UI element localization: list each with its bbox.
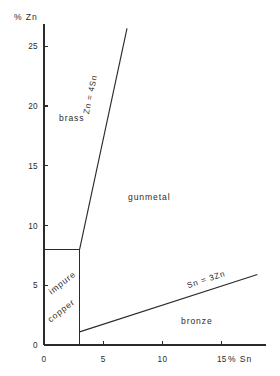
sn-3zn-boundary-line	[80, 275, 258, 332]
x-tick-label-10: 10	[158, 355, 168, 364]
x-tick-label-0: 0	[42, 355, 47, 364]
axes-group	[44, 24, 266, 345]
y-tick-label-20: 20	[28, 102, 38, 111]
y-tick-label-5: 5	[33, 281, 38, 290]
x-tick-labels: 0 5 10 15	[42, 355, 227, 364]
x-axis-title: % Sn	[228, 354, 252, 364]
x-tick-label-5: 5	[101, 355, 106, 364]
y-tick-label-15: 15	[28, 162, 38, 171]
y-axis-title: % Zn	[14, 12, 38, 22]
region-label-bronze: bronze	[181, 316, 213, 326]
impure-copper-box	[44, 249, 80, 345]
y-tick-label-0: 0	[33, 341, 38, 350]
region-label-copper: copper	[46, 297, 77, 324]
region-label-gunmetal: gunmetal	[128, 192, 171, 202]
y-tick-label-25: 25	[28, 42, 38, 51]
y-tick-label-10: 10	[28, 222, 38, 231]
x-tick-marks	[103, 341, 222, 346]
y-tick-labels: 25 20 15 10 5 0	[28, 42, 38, 350]
region-label-brass: brass	[59, 113, 85, 123]
x-tick-label-15: 15	[217, 355, 227, 364]
zn-4sn-boundary-line	[80, 28, 127, 249]
alloy-composition-chart: 25 20 15 10 5 0 0 5 10 15 % Zn % Sn Zn =…	[0, 0, 280, 376]
zn-4sn-line-label: Zn = 4Sn	[82, 74, 99, 115]
chart-container: 25 20 15 10 5 0 0 5 10 15 % Zn % Sn Zn =…	[0, 0, 280, 376]
region-label-impure: impure	[47, 269, 78, 296]
